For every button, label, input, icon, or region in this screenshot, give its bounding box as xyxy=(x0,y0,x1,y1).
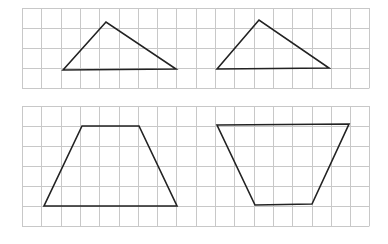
geometry-figure xyxy=(0,0,388,244)
top-grid xyxy=(22,8,370,89)
trapezoid-right xyxy=(217,124,349,205)
